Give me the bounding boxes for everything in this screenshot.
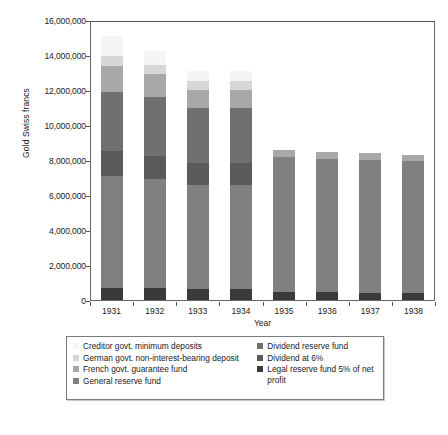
x-tick-text: 1938 bbox=[404, 306, 423, 316]
x-tick-mark bbox=[219, 302, 220, 306]
x-tick-label: 1935 bbox=[263, 302, 306, 318]
bar-segment bbox=[230, 289, 252, 300]
x-tick-mark bbox=[349, 302, 350, 306]
stacked-bar[interactable] bbox=[402, 155, 424, 300]
x-tick-mark bbox=[263, 302, 264, 306]
bar-segment bbox=[144, 51, 166, 65]
x-tick-mark bbox=[176, 302, 177, 306]
x-tick-mark bbox=[90, 302, 91, 306]
bar-segment bbox=[359, 160, 381, 293]
legend-swatch-icon bbox=[257, 366, 263, 372]
bar-segment bbox=[144, 74, 166, 97]
x-tick-text: 1932 bbox=[145, 306, 164, 316]
bar-segment bbox=[273, 157, 295, 292]
y-tick-label: 8,000,000 bbox=[49, 156, 86, 166]
x-tick-mark bbox=[435, 302, 436, 306]
bar-segment bbox=[187, 108, 209, 163]
x-axis-ticks: 19311932193319341935193619371938 bbox=[90, 302, 435, 318]
bar-segment bbox=[144, 179, 166, 288]
bar-segment bbox=[230, 81, 252, 90]
stacked-bar[interactable] bbox=[316, 152, 338, 300]
bar-slot bbox=[134, 22, 177, 300]
bar-segment bbox=[101, 151, 123, 176]
bar-segment bbox=[187, 289, 209, 300]
bar-slot bbox=[305, 22, 348, 300]
bar-segment bbox=[273, 150, 295, 158]
bar-segment bbox=[230, 163, 252, 186]
bar-slot bbox=[391, 22, 434, 300]
bar-segment bbox=[402, 293, 424, 300]
stacked-bar[interactable] bbox=[101, 36, 123, 300]
x-tick-mark bbox=[306, 302, 307, 306]
legend-item[interactable]: Creditor govt. minimum deposits bbox=[73, 341, 257, 352]
bar-segment bbox=[316, 152, 338, 159]
x-tick-text: 1935 bbox=[275, 306, 294, 316]
bar-segment bbox=[187, 71, 209, 82]
plot-area bbox=[90, 21, 435, 301]
stacked-bar[interactable] bbox=[187, 71, 209, 300]
legend-item[interactable]: German govt. non-interest-bearing deposi… bbox=[73, 353, 257, 364]
x-tick-text: 1937 bbox=[361, 306, 380, 316]
bar-segment bbox=[187, 163, 209, 186]
y-tick-label: 2,000,000 bbox=[49, 261, 86, 271]
bar-segment bbox=[230, 185, 252, 288]
bar-segment bbox=[101, 56, 123, 67]
bar-segment bbox=[187, 90, 209, 108]
stacked-bar[interactable] bbox=[230, 71, 252, 300]
y-tick-label: 14,000,000 bbox=[44, 51, 86, 61]
legend-label: Dividend reserve fund bbox=[267, 341, 348, 352]
legend-item[interactable]: Dividend at 6% bbox=[257, 353, 377, 364]
legend-label: General reserve fund bbox=[83, 376, 161, 387]
bar-segment bbox=[230, 108, 252, 163]
x-axis-title: Year bbox=[90, 318, 435, 328]
x-tick-label: 1931 bbox=[90, 302, 133, 318]
bar-slot bbox=[91, 22, 134, 300]
legend-item[interactable]: French govt. guarantee fund bbox=[73, 364, 257, 375]
stacked-bar[interactable] bbox=[273, 150, 295, 301]
bar-segment bbox=[230, 90, 252, 108]
bar-segment bbox=[316, 292, 338, 300]
x-tick-label: 1938 bbox=[392, 302, 435, 318]
legend-item[interactable]: General reserve fund bbox=[73, 376, 257, 387]
bar-segment bbox=[273, 292, 295, 300]
x-tick-label: 1933 bbox=[176, 302, 219, 318]
legend-swatch-icon bbox=[257, 355, 263, 361]
legend-label: French govt. guarantee fund bbox=[83, 364, 187, 375]
x-tick-text: 1934 bbox=[231, 306, 250, 316]
legend-label: German govt. non-interest-bearing deposi… bbox=[83, 353, 239, 364]
y-tick-label: 12,000,000 bbox=[44, 86, 86, 96]
bar-segment bbox=[359, 153, 381, 160]
legend-swatch-icon bbox=[73, 355, 79, 361]
y-tick-label: 4,000,000 bbox=[49, 226, 86, 236]
x-tick-label: 1937 bbox=[349, 302, 392, 318]
x-tick-label: 1932 bbox=[133, 302, 176, 318]
legend-item[interactable]: Legal reserve fund 5% of net profit bbox=[257, 364, 377, 385]
bar-segment bbox=[101, 92, 123, 152]
legend-swatch-icon bbox=[73, 366, 79, 372]
bar-segment bbox=[402, 155, 424, 162]
stacked-bar[interactable] bbox=[359, 153, 381, 300]
legend-swatch-icon bbox=[73, 343, 79, 349]
x-tick-mark bbox=[392, 302, 393, 306]
bar-segment bbox=[101, 66, 123, 91]
y-tick-label: 6,000,000 bbox=[49, 191, 86, 201]
x-tick-mark bbox=[133, 302, 134, 306]
stacked-bar[interactable] bbox=[144, 51, 166, 300]
bar-slot bbox=[348, 22, 391, 300]
bar-segment bbox=[101, 288, 123, 300]
bar-slot bbox=[263, 22, 306, 300]
legend-item[interactable]: Dividend reserve fund bbox=[257, 341, 377, 352]
bar-segment bbox=[230, 71, 252, 82]
bar-segment bbox=[144, 65, 166, 75]
bar-segment bbox=[402, 161, 424, 292]
legend-swatch-icon bbox=[73, 378, 79, 384]
bar-segment bbox=[187, 81, 209, 90]
bar-segment bbox=[101, 36, 123, 56]
chart-legend: Creditor govt. minimum depositsGerman go… bbox=[66, 336, 384, 400]
y-tick-label: 16,000,000 bbox=[44, 16, 86, 26]
x-tick-text: 1936 bbox=[318, 306, 337, 316]
bar-segment bbox=[144, 156, 166, 180]
bar-segment bbox=[144, 97, 166, 156]
x-tick-text: 1933 bbox=[188, 306, 207, 316]
bar-slot bbox=[177, 22, 220, 300]
